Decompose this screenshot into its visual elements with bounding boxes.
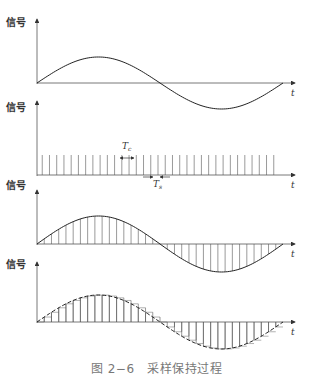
x-axis-label: t <box>291 327 295 337</box>
tc-label: Tc <box>122 141 132 152</box>
x-axis-label: t <box>291 180 295 190</box>
figure-caption: 图 2−6 采样保持过程 <box>0 359 313 376</box>
sample-hold-figure: 信号 t 信号 t Tc Ts 信号 t 信号 t <box>0 0 313 384</box>
pulse-train <box>42 155 274 175</box>
y-axis-label: 信号 <box>6 101 26 113</box>
panel-sampled-signal: 信号 t <box>6 179 295 272</box>
ts-label: Ts <box>153 179 162 190</box>
panel-held-signal: 信号 t <box>6 258 295 349</box>
x-axis-label: t <box>291 88 295 98</box>
y-axis-label: 信号 <box>6 258 26 270</box>
y-axis-label: 信号 <box>6 179 26 191</box>
x-axis-label: t <box>291 249 295 259</box>
panel-analog-signal: 信号 t <box>6 16 295 109</box>
panel-sampling-pulses: 信号 t Tc Ts <box>6 101 295 190</box>
y-axis-label: 信号 <box>6 16 26 28</box>
